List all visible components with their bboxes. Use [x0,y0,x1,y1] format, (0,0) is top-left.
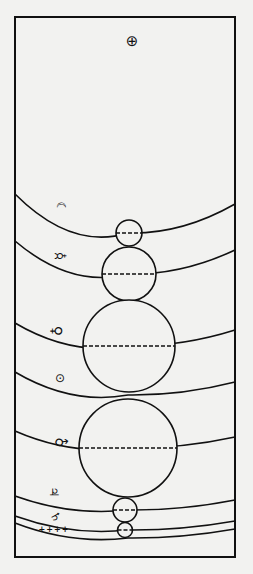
venus-symbol: ♀ [50,326,64,336]
epicycle-circles [79,220,177,538]
mercury-symbol: ☿ [53,252,67,261]
sun-symbol: ⊙ [55,372,65,384]
moon-symbol: ☾ [55,202,67,213]
jupiter-symbol: ♃ [48,487,60,498]
fixed-stars-symbol: ++++ [39,526,70,534]
diagram-canvas: ⊕ ☾ ☿ ♀ ⊙ ♂ ♃ ♄ ++++ [0,0,253,574]
orbit-diagram-svg [0,0,253,574]
earth-symbol: ⊕ [126,34,139,49]
